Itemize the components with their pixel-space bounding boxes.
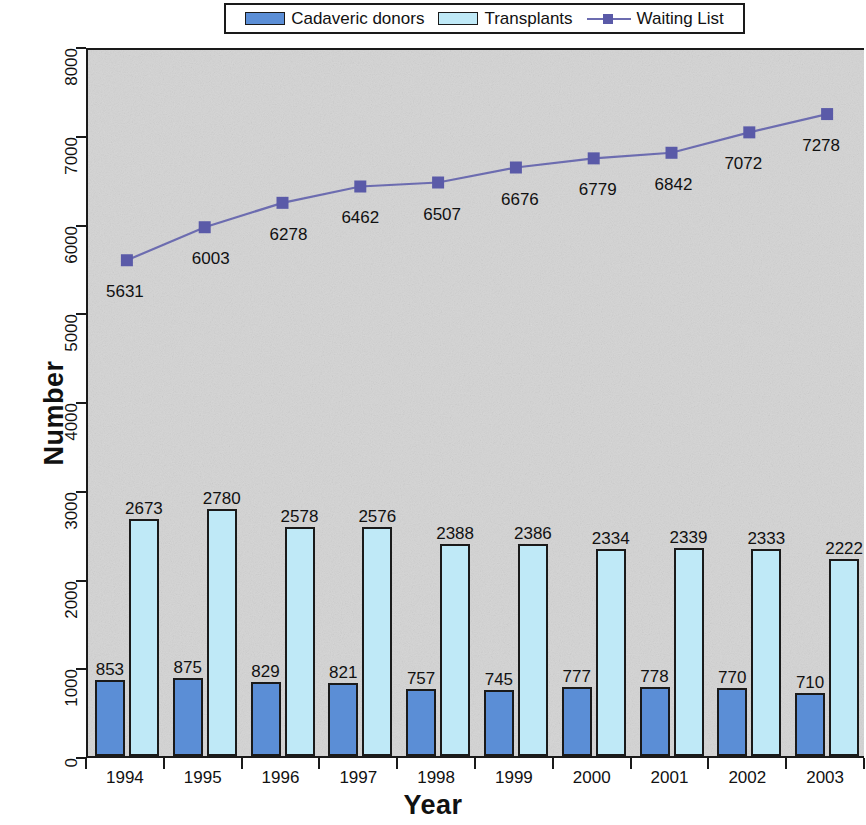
line-label-waiting-list: 6278 (270, 225, 308, 245)
line-label-waiting-list: 6676 (501, 190, 539, 210)
legend-label-transplants: Transplants (484, 10, 572, 27)
legend-item-cadaveric-donors[interactable]: Cadaveric donors (245, 10, 424, 27)
x-axis-tick (863, 758, 865, 769)
line-label-waiting-list: 6842 (655, 175, 693, 195)
line-label-waiting-list: 6507 (423, 205, 461, 225)
line-label-waiting-list: 6779 (579, 180, 617, 200)
x-axis-tick (318, 758, 320, 769)
y-axis-title: Number (39, 313, 70, 513)
x-axis-tick (163, 758, 165, 769)
legend-swatch-icon-cadaveric-donors (245, 12, 285, 25)
line-label-waiting-list: 6003 (192, 249, 230, 269)
x-axis-tick (707, 758, 709, 769)
legend-item-transplants[interactable]: Transplants (438, 10, 572, 27)
chart-legend: Cadaveric donors Transplants Waiting Lis… (224, 3, 745, 34)
legend-item-waiting-list[interactable]: Waiting List (587, 10, 724, 27)
x-axis-tick-label: 1994 (106, 768, 144, 788)
x-axis-tick-label: 2002 (728, 768, 766, 788)
y-axis-tick-label: 2000 (62, 581, 82, 619)
legend-line-marker-icon-waiting-list (587, 12, 631, 25)
legend-label-waiting-list: Waiting List (637, 10, 724, 27)
line-label-layer: 5631600362786462650766766779684270727278 (88, 50, 864, 756)
y-axis-tick-label: 7000 (62, 137, 82, 175)
plot-area: 8532673875278082925788212576757238874523… (86, 48, 864, 758)
line-label-waiting-list: 6462 (341, 208, 379, 228)
y-axis-tick-label: 8000 (62, 48, 82, 86)
x-axis-title: Year (0, 790, 866, 821)
legend-label-cadaveric-donors: Cadaveric donors (291, 10, 424, 27)
x-axis-tick-label: 1995 (184, 768, 222, 788)
x-axis-tick-label: 1997 (339, 768, 377, 788)
x-axis-tick-label: 1996 (262, 768, 300, 788)
x-axis-tick (241, 758, 243, 769)
x-axis-tick-label: 1999 (495, 768, 533, 788)
line-label-waiting-list: 5631 (106, 282, 144, 302)
x-axis-tick (552, 758, 554, 769)
legend-swatch-icon-transplants (438, 12, 478, 25)
x-axis-tick (630, 758, 632, 769)
x-axis-tick-label: 2003 (806, 768, 844, 788)
x-axis-tick (85, 758, 87, 769)
y-axis-tick-label: 1000 (62, 669, 82, 707)
x-axis-tick-label: 1998 (417, 768, 455, 788)
x-axis-tick-label: 2000 (573, 768, 611, 788)
line-label-waiting-list: 7278 (802, 136, 840, 156)
x-axis-tick-label: 2001 (651, 768, 689, 788)
chart-figure: Cadaveric donors Transplants Waiting Lis… (0, 0, 866, 825)
x-axis-tick (785, 758, 787, 769)
x-axis-tick (474, 758, 476, 769)
y-axis-tick-label: 6000 (62, 226, 82, 264)
line-label-waiting-list: 7072 (724, 154, 762, 174)
x-axis-tick (396, 758, 398, 769)
